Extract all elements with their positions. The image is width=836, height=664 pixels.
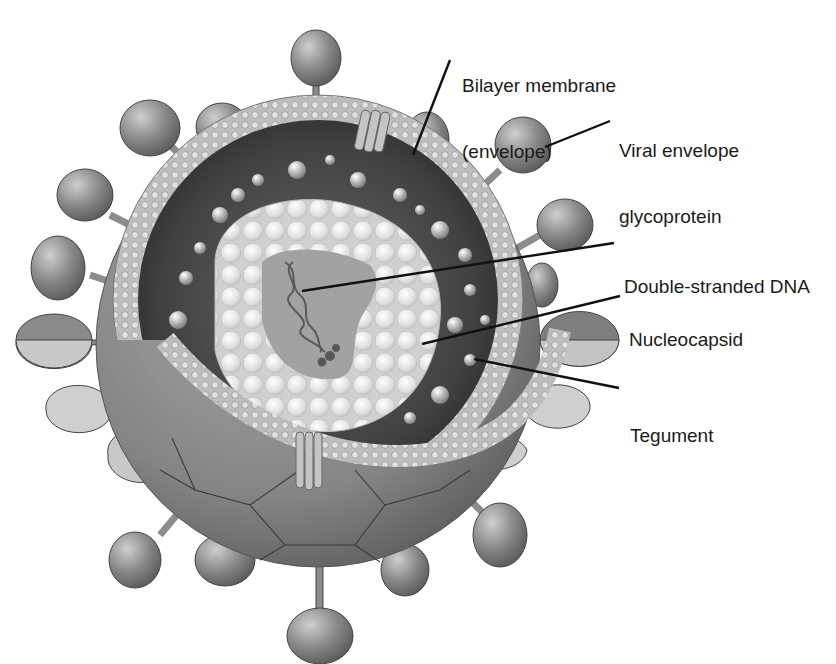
- label-tegument-text: Tegument: [630, 425, 713, 447]
- label-bilayer-line2: (envelope): [462, 141, 616, 163]
- label-bilayer-line1: Bilayer membrane: [462, 75, 616, 97]
- label-glycoprotein-line2: glycoprotein: [619, 206, 739, 228]
- label-viral-envelope-glycoprotein: Viral envelope glycoprotein: [619, 96, 739, 250]
- label-nucleocapsid: Nucleocapsid: [629, 285, 743, 373]
- label-tegument: Tegument: [630, 381, 713, 469]
- label-glycoprotein-line1: Viral envelope: [619, 140, 739, 162]
- label-nucleocapsid-text: Nucleocapsid: [629, 329, 743, 351]
- label-bilayer-membrane: Bilayer membrane (envelope): [462, 31, 616, 185]
